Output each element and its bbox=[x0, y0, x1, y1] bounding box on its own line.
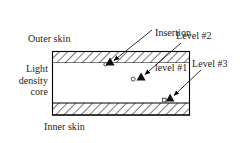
label-core-line-3: core bbox=[2, 86, 48, 98]
inner-skin-band bbox=[53, 103, 190, 115]
label-light-density-core: Light density core bbox=[2, 63, 48, 98]
label-outer-skin: Outer skin bbox=[28, 33, 70, 45]
marker-circle-level-2 bbox=[131, 77, 135, 81]
label-core-line-1: Light bbox=[2, 63, 48, 75]
label-level-2: Level #2 bbox=[176, 30, 212, 42]
label-insertion-level-1: Insertion level #1 bbox=[155, 4, 191, 96]
marker-square-level-3 bbox=[162, 98, 166, 102]
label-level-3: Level #3 bbox=[192, 58, 228, 70]
label-insertion-level-1-line-2: level #1 bbox=[155, 62, 191, 74]
figure-root: Outer skin Inner skin Light density core… bbox=[0, 0, 244, 143]
label-core-line-2: density bbox=[2, 75, 48, 87]
label-inner-skin: Inner skin bbox=[44, 121, 85, 133]
